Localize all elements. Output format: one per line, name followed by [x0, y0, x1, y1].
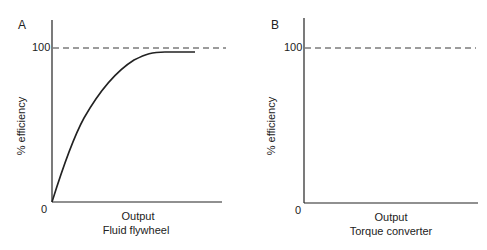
panel-b-y-tick-0: 0: [295, 204, 301, 216]
panel-b-x-axis-label: Output: [374, 211, 407, 223]
panel-a-plot: [52, 20, 226, 202]
panel-b-y-axis-label: % efficiency: [265, 91, 277, 161]
panel-b-y-tick-100: 100: [284, 41, 302, 53]
panel-a-y-tick-0: 0: [41, 203, 47, 215]
panel-b-label: B: [271, 18, 279, 32]
panel-a-y-axis-label: % efficiency: [15, 91, 27, 161]
panel-a-y-tick-100: 100: [32, 41, 50, 53]
panel-b-plot: [304, 18, 478, 203]
charts-canvas: [0, 0, 487, 250]
panel-a-label: A: [18, 18, 26, 32]
panel-a-efficiency-curve: [52, 52, 195, 202]
panel-a-x-axis-label: Output: [121, 210, 154, 222]
panel-a-caption: Fluid flywheel: [103, 224, 170, 236]
panel-b-caption: Torque converter: [350, 225, 433, 237]
